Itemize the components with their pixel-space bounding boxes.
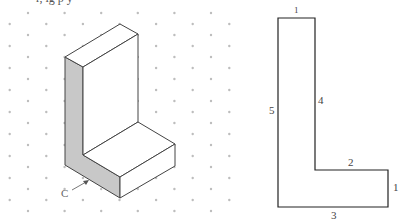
arrowhead-icon (83, 180, 89, 185)
edge-label-step-top: 2 (348, 157, 354, 168)
isometric-drawing (0, 0, 399, 219)
edge-label-top: 1 (294, 6, 299, 15)
orthographic-l-view (278, 18, 388, 207)
edge-label-step-right: 1 (393, 182, 399, 193)
label-c: C (61, 188, 68, 199)
edge-label-bottom: 3 (331, 210, 337, 219)
edge-label-outer-vertical: 5 (269, 105, 275, 116)
pointer-arrow-c (72, 182, 86, 190)
figure: r, ig p y C 1 5 4 2 1 3 (0, 0, 399, 219)
edge-label-inner-vertical: 4 (318, 95, 324, 106)
